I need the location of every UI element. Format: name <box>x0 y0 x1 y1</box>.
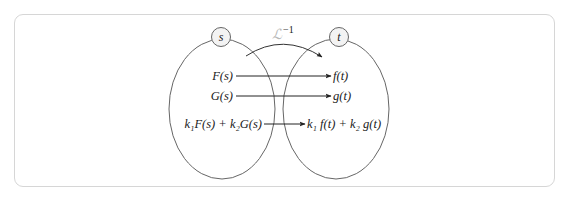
mapping-to-g: g(t) <box>333 89 351 103</box>
svg-text:s: s <box>219 30 224 44</box>
s-domain-ellipse <box>169 39 275 179</box>
mapping-to-f: f(t) <box>333 69 348 83</box>
mapping-to-combination: k₁ f(t) + k₂ g(t) <box>307 117 381 131</box>
mapping-from-F: F(s) <box>211 69 233 83</box>
svg-text:−1: −1 <box>283 24 294 35</box>
svg-text:ℒ: ℒ <box>272 27 283 42</box>
t-domain-label: t <box>330 28 349 47</box>
inverse-laplace-operator: ℒ −1 <box>272 24 294 42</box>
t-domain-ellipse <box>283 39 389 179</box>
inverse-laplace-arrow <box>246 44 322 57</box>
s-domain-label: s <box>212 28 231 47</box>
mapping-from-combination: k₁F(s) + k₂G(s) <box>184 117 262 131</box>
laplace-inverse-diagram: s t ℒ −1 F(s) f(t) G(s) g(t) k₁F(s) + k₂… <box>0 0 570 200</box>
mapping-from-G: G(s) <box>211 89 233 103</box>
